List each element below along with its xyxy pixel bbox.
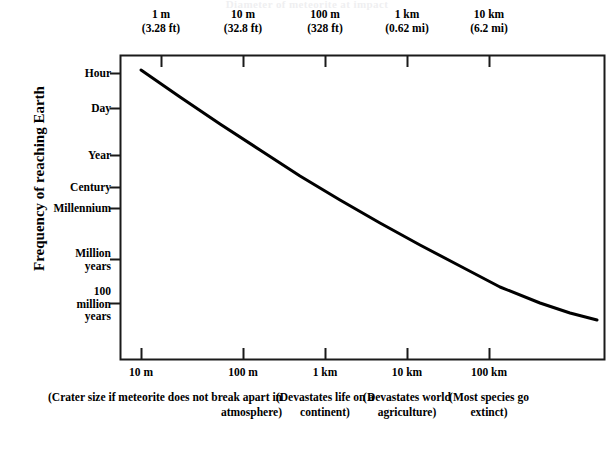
annotation-100km-text: (Most species go extinct) [449,391,529,418]
bottom-axis-label-4: 100 km [429,366,549,378]
y-axis-ticks [110,74,120,304]
top-axis-ticks [162,56,490,67]
impact-frequency-curve [141,70,597,320]
bottom-axis-ticks [142,348,490,359]
annotation-crater-size: (Crater size if meteorite does not break… [0,390,290,419]
annotation-100km: (Most species go extinct) [432,390,546,419]
plot-frame [121,56,605,360]
plot-area [0,0,614,452]
chart-canvas: Diameter of meteorite at impact 1 m (3.2… [0,0,614,452]
